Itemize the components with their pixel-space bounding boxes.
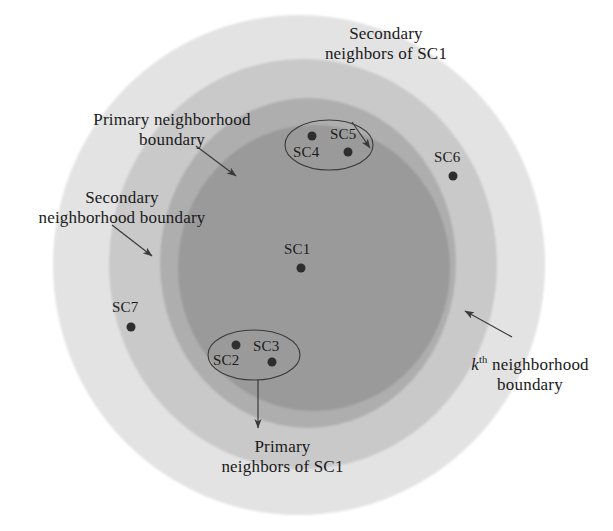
callout-kth-neighborhood-boundary: kth neighborhoodboundary xyxy=(455,355,605,395)
callout-secondary-neighborhood-boundary: Secondary neighborhood boundary xyxy=(18,188,226,228)
neighborhood-diagram-figure: SC1SC2SC3SC4SC5SC6SC7 Secondary neighbor… xyxy=(0,0,613,531)
node-marker-sc1 xyxy=(297,264,306,273)
kth-boundary-line2: boundary xyxy=(497,375,563,394)
kth-boundary-line1-rest: neighborhood xyxy=(488,355,589,374)
kth-k-symbol: k xyxy=(471,355,479,374)
node-marker-sc6 xyxy=(449,172,458,181)
node-label-sc6: SC6 xyxy=(434,149,460,167)
node-label-sc1: SC1 xyxy=(284,241,310,259)
kth-ordinal-suffix: th xyxy=(479,354,488,365)
node-marker-sc4 xyxy=(308,132,317,141)
node-label-sc5: SC5 xyxy=(330,126,356,144)
callout-primary-neighbors: Primary neighbors of SC1 xyxy=(195,437,370,477)
node-label-sc2: SC2 xyxy=(213,352,239,370)
node-label-sc3: SC3 xyxy=(253,338,279,356)
node-label-sc4: SC4 xyxy=(293,144,319,162)
node-marker-sc7 xyxy=(127,323,136,332)
node-marker-sc5 xyxy=(344,148,353,157)
callout-primary-neighborhood-boundary: Primary neighborhood boundary xyxy=(72,110,272,150)
callout-secondary-neighbors: Secondary neighbors of SC1 xyxy=(296,24,476,64)
node-marker-sc3 xyxy=(268,358,277,367)
node-label-sc7: SC7 xyxy=(112,299,138,317)
node-marker-sc2 xyxy=(232,341,241,350)
